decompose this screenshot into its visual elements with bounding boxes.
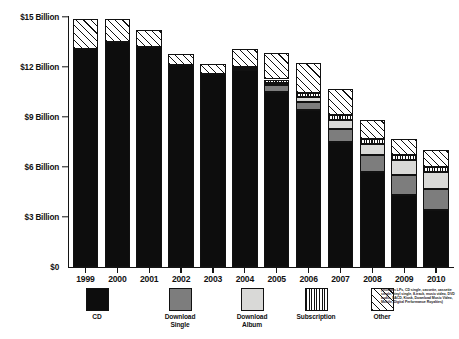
x-tick-label-2001: 2001: [140, 274, 158, 284]
y-tick-label: $9 Billion: [25, 113, 59, 122]
x-tick-mark: [212, 268, 213, 273]
bar-segment-subscription-2007: [328, 115, 354, 120]
bar-2010: [423, 150, 449, 267]
x-tick-mark: [276, 268, 277, 273]
x-tick-label-2005: 2005: [268, 274, 286, 284]
legend-swatch-download-single: [169, 288, 192, 311]
x-tick-label-2003: 2003: [204, 274, 222, 284]
bar-segment-download-album-2007: [328, 120, 354, 128]
bar-segment-cd-2003: [200, 74, 226, 267]
legend-label: Other: [352, 313, 412, 321]
x-tick-mark: [85, 268, 86, 273]
bar-segment-other-2006: [296, 63, 322, 93]
bar-segment-other-1999: [73, 19, 99, 49]
bar-segment-cd-2002: [168, 65, 194, 267]
bar-segment-subscription-2005: [264, 80, 290, 83]
bar-segment-download-single-2008: [360, 155, 386, 172]
x-tick-mark: [308, 268, 309, 273]
bar-1999: [73, 19, 99, 267]
bar-segment-cd-1999: [73, 49, 99, 267]
y-tick-mark: [62, 16, 69, 17]
y-axis-line: [68, 16, 69, 268]
bar-segment-download-album-2010: [423, 172, 449, 189]
bar-segment-cd-2004: [232, 70, 258, 267]
bar-segment-subscription-2008: [360, 139, 386, 144]
bar-segment-download-single-2005: [264, 85, 290, 92]
x-tick-mark: [404, 268, 405, 273]
bar-segment-cd-2008: [360, 172, 386, 267]
x-tick-label-2002: 2002: [172, 274, 190, 284]
y-tick-mark: [62, 166, 69, 167]
bar-segment-cd-2001: [136, 47, 162, 267]
x-tick-label-2010: 2010: [427, 274, 445, 284]
legend-swatch-download-album: [241, 288, 264, 311]
x-tick-label-2006: 2006: [299, 274, 317, 284]
bar-segment-download-album-2006: [296, 97, 322, 102]
chart-plot-area: $0$3 Billion$6 Billion$9 Billion$12 Bill…: [0, 0, 459, 285]
bar-segment-download-single-2010: [423, 189, 449, 211]
bar-segment-cd-2006: [296, 110, 322, 267]
legend-label: Download Album: [222, 313, 282, 328]
bar-segment-cd-2010: [423, 210, 449, 267]
y-tick-mark: [62, 216, 69, 217]
chart-legend: CDDownload SingleDownload AlbumSubscript…: [0, 288, 459, 339]
x-tick-label-2004: 2004: [236, 274, 254, 284]
chart-root: $0$3 Billion$6 Billion$9 Billion$12 Bill…: [0, 0, 459, 339]
bar-2000: [105, 19, 131, 267]
bar-segment-other-2008: [360, 120, 386, 138]
x-tick-mark: [244, 268, 245, 273]
bar-segment-other-2007: [328, 89, 354, 116]
bar-segment-other-2004: [232, 49, 258, 67]
bar-2009: [391, 139, 417, 267]
bar-2002: [168, 54, 194, 267]
bar-2008: [360, 120, 386, 267]
y-tick-mark: [62, 116, 69, 117]
x-axis-line: [68, 267, 454, 268]
bar-2003: [200, 64, 226, 267]
x-tick-mark: [372, 268, 373, 273]
bar-segment-other-2003: [200, 64, 226, 74]
x-tick-mark: [117, 268, 118, 273]
bar-segment-subscription-2010: [423, 167, 449, 172]
legend-swatch-cd: [86, 288, 109, 311]
bar-segment-cd-2009: [391, 195, 417, 267]
bar-segment-other-2010: [423, 150, 449, 167]
bar-segment-other-2002: [168, 54, 194, 66]
y-tick-label: $12 Billion: [20, 63, 59, 72]
legend-label: CD: [67, 313, 127, 321]
bar-segment-subscription-2009: [391, 155, 417, 160]
bar-segment-cd-2000: [105, 42, 131, 267]
bar-segment-download-album-2005: [264, 83, 290, 86]
y-tick-label: $0: [50, 263, 59, 272]
bar-segment-other-2005: [264, 53, 290, 80]
bar-2005: [264, 53, 290, 267]
y-tick-label: $6 Billion: [25, 163, 59, 172]
y-tick-mark: [62, 66, 69, 67]
x-tick-label-1999: 1999: [76, 274, 94, 284]
y-tick-label: $3 Billion: [25, 213, 59, 222]
legend-item-cd[interactable]: CD: [67, 288, 127, 321]
bar-2007: [328, 89, 354, 267]
x-tick-label-2009: 2009: [395, 274, 413, 284]
bar-segment-other-2000: [105, 19, 131, 42]
legend-label: Download Single: [150, 313, 210, 328]
bar-segment-other-2009: [391, 139, 417, 156]
x-tick-label-2007: 2007: [331, 274, 349, 284]
x-tick-label-2008: 2008: [363, 274, 381, 284]
bar-segment-subscription-2006: [296, 93, 322, 97]
x-tick-mark: [435, 268, 436, 273]
bar-segment-cd-2005: [264, 92, 290, 267]
bar-2006: [296, 63, 322, 267]
bar-segment-other-2001: [136, 30, 162, 47]
x-tick-label-2000: 2000: [108, 274, 126, 284]
x-tick-mark: [180, 268, 181, 273]
legend-item-download-single[interactable]: Download Single: [150, 288, 210, 328]
bar-segment-download-album-2008: [360, 144, 386, 156]
bar-segment-download-single-2009: [391, 175, 417, 195]
bar-segment-download-single-2007: [328, 129, 354, 142]
legend-other-note: (includes LPs, CD single, cassette, cass…: [381, 288, 457, 304]
legend-item-subscription[interactable]: Subscription: [286, 288, 346, 321]
y-tick-label: $15 Billion: [20, 13, 59, 22]
x-tick-mark: [340, 268, 341, 273]
legend-item-download-album[interactable]: Download Album: [222, 288, 282, 328]
